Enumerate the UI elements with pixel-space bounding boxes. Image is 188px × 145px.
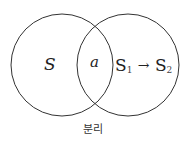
left-set-label: S bbox=[44, 56, 56, 73]
right-set-label: S1 → S2 bbox=[115, 57, 172, 75]
s2-subscript: 2 bbox=[167, 65, 173, 75]
arrow-icon: → bbox=[138, 57, 150, 73]
s2-label: S bbox=[155, 55, 167, 75]
caption: 분리 bbox=[83, 124, 103, 135]
intersection-label: a bbox=[90, 55, 99, 70]
s1-subscript: 1 bbox=[127, 65, 133, 75]
s1-label: S bbox=[115, 55, 127, 75]
